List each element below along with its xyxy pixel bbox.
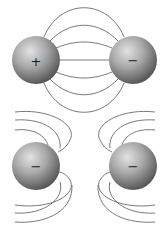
minus-sign: − [31, 159, 42, 174]
diagram-canvas: + − − − [0, 0, 167, 239]
negative-charge-sphere-bottom-right: − [109, 142, 157, 190]
negative-charge-sphere-top: − [109, 36, 157, 84]
minus-sign: − [128, 159, 139, 174]
plus-sign: + [31, 54, 42, 69]
field-line-diagram: + − − − [0, 0, 167, 239]
negative-charge-sphere-bottom-left: − [12, 142, 60, 190]
minus-sign: − [128, 53, 139, 68]
positive-charge-sphere: + [12, 36, 60, 84]
